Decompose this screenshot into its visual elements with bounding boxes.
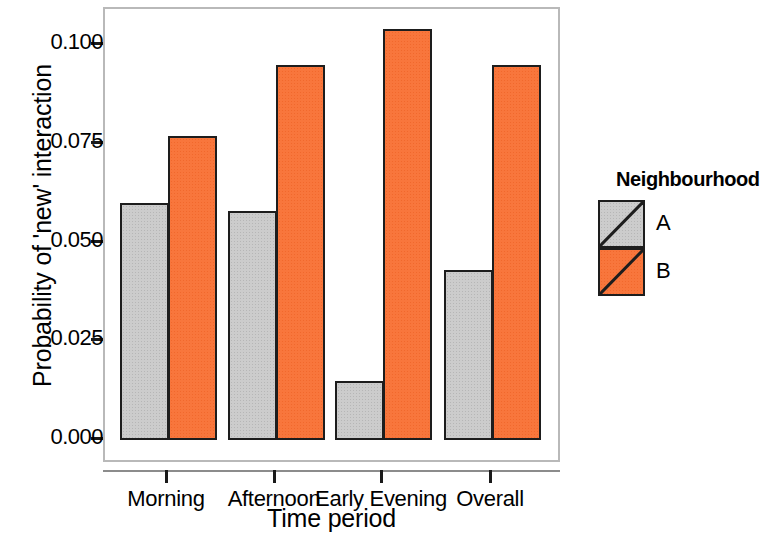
x-tick-mark [489, 470, 492, 483]
legend-swatch-a [598, 200, 645, 248]
bar-afternoon-b [276, 65, 325, 440]
y-tick-label: 0.075 [15, 130, 103, 152]
legend-entry-a: A [598, 200, 738, 248]
y-tick-label: 0.050 [15, 229, 103, 251]
legend-label-a: A [656, 212, 671, 234]
legend-diagonal-icon [600, 250, 643, 294]
legend-title: Neighbourhood [616, 168, 760, 191]
bar-overall-a [444, 270, 493, 440]
legend-swatch-b [598, 248, 645, 296]
y-tick-label: 0.000 [15, 426, 103, 448]
legend-diagonal-icon [600, 202, 643, 246]
bar-afternoon-a [228, 211, 277, 440]
plot-area [105, 9, 558, 460]
y-axis-ticks: 0.0000.0250.0500.0750.100 [0, 0, 103, 530]
bar-overall-b [492, 65, 541, 440]
y-tick-label: 0.100 [15, 31, 103, 53]
bar-morning-b [168, 136, 217, 440]
x-tick-mark [165, 470, 168, 483]
bar-morning-a [120, 203, 169, 440]
y-tick-label: 0.025 [15, 327, 103, 349]
legend-entry-b: B [598, 248, 738, 296]
x-tick-mark [273, 470, 276, 483]
x-tick-mark [380, 470, 383, 483]
plot-frame [103, 7, 560, 462]
x-axis-title: Time period [103, 504, 560, 533]
legend-label-b: B [656, 260, 671, 282]
bar-early-evening-a [335, 381, 384, 440]
bar-early-evening-b [383, 29, 432, 440]
